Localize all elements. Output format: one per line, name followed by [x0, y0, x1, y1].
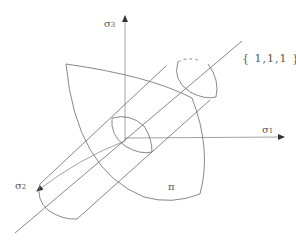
stress-space-diagram — [0, 0, 296, 249]
sigma1-axis — [125, 137, 284, 138]
yield-cylinder — [39, 59, 217, 219]
pi-plane — [66, 64, 205, 200]
pi-plane-label: π — [168, 181, 175, 192]
hydrostatic-axis — [15, 41, 242, 233]
sigma2-axis — [37, 141, 125, 191]
sigma3-label: σ3 — [104, 18, 115, 29]
sigma2-label: σ2 — [15, 180, 26, 191]
hydrostatic-axis-label: { 1,1,1 } — [242, 52, 296, 65]
sigma1-label: σ1 — [262, 124, 273, 135]
